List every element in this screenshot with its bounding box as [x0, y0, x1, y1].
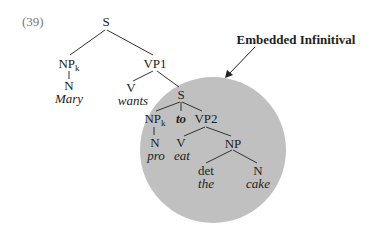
word-to: to: [176, 112, 186, 125]
node-s-root: S: [102, 15, 109, 28]
node-s-embedded: S: [177, 88, 184, 101]
coindex: k: [75, 63, 80, 73]
node-np-object: NP: [225, 137, 242, 150]
node-label: NP: [58, 56, 75, 71]
node-label: NP: [144, 111, 161, 126]
node-vp2: VP2: [194, 112, 217, 125]
coindex: k: [161, 118, 166, 128]
word-pro: pro: [147, 149, 165, 162]
node-np-subject: NPk: [58, 57, 79, 75]
word-wants: wants: [118, 94, 148, 107]
node-vp1: VP1: [143, 57, 166, 70]
example-number: (39): [22, 14, 44, 30]
word-eat: eat: [174, 149, 190, 162]
embedded-infinitival-label: Embedded Infinitival: [237, 33, 356, 46]
annotation-arrow: [225, 47, 255, 78]
word-mary: Mary: [55, 92, 83, 105]
node-np-embedded: NPk: [144, 112, 165, 130]
word-cake: cake: [246, 177, 270, 190]
word-the: the: [198, 177, 214, 190]
